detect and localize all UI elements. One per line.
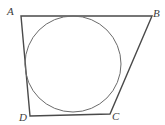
vertex-label-b: B (153, 8, 160, 19)
geometry-diagram (0, 0, 165, 125)
vertex-label-c: C (112, 111, 119, 122)
vertex-label-d: D (19, 112, 27, 123)
quadrilateral-abcd (21, 16, 152, 116)
geometry-figure: A B C D (0, 0, 165, 125)
vertex-label-a: A (7, 6, 14, 17)
inscribed-circle (25, 16, 121, 112)
